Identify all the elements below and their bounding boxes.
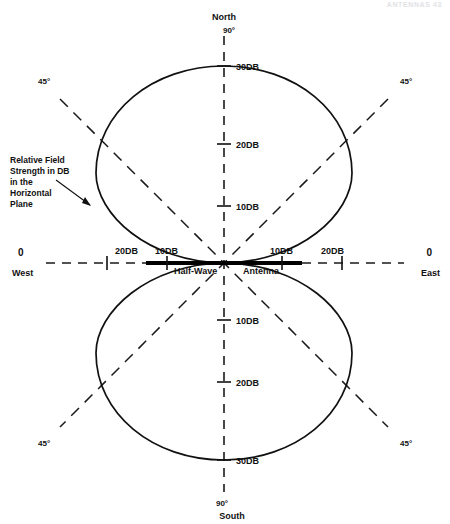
annotation-line-1: Relative Field — [10, 155, 65, 165]
label-45-top-left: 45° — [38, 77, 50, 86]
label-south-30db: 30DB — [236, 456, 260, 466]
label-north: North — [212, 12, 236, 22]
annotation-relative-field-strength: Relative Field Strength in DB in the Hor… — [10, 155, 91, 209]
label-south-degrees: 90° — [216, 499, 228, 508]
label-west-20db: 20DB — [115, 246, 139, 256]
label-east-10db: 10DB — [270, 246, 294, 256]
label-west-10db: 10DB — [155, 246, 179, 256]
annotation-line-3: in the — [10, 177, 33, 187]
label-east: East — [421, 268, 440, 278]
label-south-10db: 10DB — [236, 316, 260, 326]
label-45-top-right: 45° — [400, 77, 412, 86]
label-west-zero: 0 — [18, 247, 24, 258]
label-antenna: Antenna — [243, 266, 280, 276]
annotation-line-5: Plane — [10, 199, 33, 209]
label-45-bottom-right: 45° — [400, 439, 412, 448]
label-east-zero: 0 — [426, 247, 432, 258]
label-north-degrees: 90° — [223, 26, 235, 35]
label-half-wave: Half-Wave — [174, 266, 217, 276]
label-west: West — [12, 268, 33, 278]
label-north-10db: 10DB — [236, 202, 260, 212]
antenna-pattern-figure: ANTENNAS 43 — [0, 0, 450, 524]
label-north-30db: 30DB — [236, 62, 260, 72]
annotation-arrowhead-icon — [82, 197, 91, 206]
label-north-20db: 20DB — [236, 140, 260, 150]
annotation-line-2: Strength in DB — [10, 166, 70, 176]
label-south: South — [219, 511, 245, 521]
label-south-20db: 20DB — [236, 378, 260, 388]
polar-radiation-pattern-chart: 30DB 20DB 10DB 10DB 20DB 30DB 20DB 10DB … — [0, 0, 450, 524]
label-45-bottom-left: 45° — [38, 439, 50, 448]
annotation-line-4: Horizontal — [10, 188, 52, 198]
label-east-20db: 20DB — [321, 246, 345, 256]
